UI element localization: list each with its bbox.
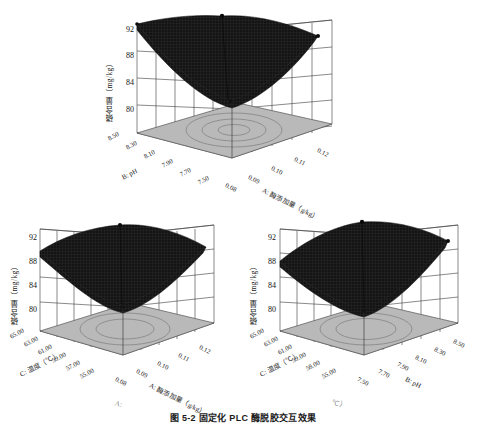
z-tick-br-1: 88: [256, 257, 276, 266]
surface-mesh-br: [280, 220, 450, 317]
z-tick-br-3: 80: [256, 305, 276, 314]
z-tick-br-0: 92: [256, 233, 276, 242]
z-tick-top-3: 80: [112, 105, 134, 114]
response-surface-plot-ab: 磷含量（mg/kg） 92 88 84 80: [104, 8, 364, 198]
z-tick-bl-0: 92: [17, 233, 37, 242]
surface-canvas-top: [104, 8, 364, 198]
z-tick-bl-2: 84: [17, 281, 37, 290]
response-surface-plot-bc: 磷含量（mg/kg） 92 88 84 80: [246, 215, 484, 390]
z-tick-bl-1: 88: [17, 257, 37, 266]
z-tick-br-2: 84: [256, 281, 276, 290]
z-tick-top-0: 92: [112, 25, 134, 34]
z-tick-top-2: 84: [112, 78, 134, 87]
z-tick-top-1: 88: [112, 51, 134, 60]
figure-caption: 图 5-2 固定化 PLC 酶脱胶交互效果: [0, 411, 486, 424]
response-surface-plot-ac: 磷含量（mg/kg） 92 88 84 80: [8, 215, 238, 390]
contour-floor-top: [137, 103, 332, 158]
scan-artifact-a-label: A:: [114, 399, 123, 409]
figure-page: 磷含量（mg/kg） 92 88 84 80: [0, 0, 486, 424]
surface-mesh-bl: [40, 223, 206, 313]
z-tick-bl-3: 80: [17, 305, 37, 314]
scan-artifact-unit: ℃）: [331, 396, 348, 410]
